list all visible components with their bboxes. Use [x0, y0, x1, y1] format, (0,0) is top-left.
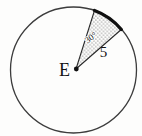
radius-label: 5: [100, 44, 108, 60]
shaded-sector: [76, 11, 121, 70]
center-label: E: [59, 60, 70, 80]
geometry-figure: E 30° 5: [0, 0, 142, 136]
circle-sector-diagram: E 30° 5: [0, 0, 142, 136]
center-point: [74, 67, 79, 72]
